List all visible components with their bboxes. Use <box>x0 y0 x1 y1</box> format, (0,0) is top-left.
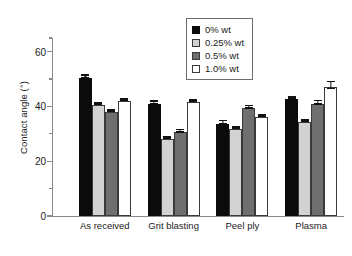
bar <box>148 104 161 216</box>
y-axis-line <box>52 38 53 216</box>
y-minor-tick-50 <box>49 78 53 79</box>
error-bar-cap-bottom <box>314 103 322 104</box>
bar <box>229 129 242 216</box>
error-bar-cap-bottom <box>163 138 171 139</box>
x-axis-label-plasma: Plasma <box>295 220 327 231</box>
error-bar-cap-bottom <box>245 107 253 108</box>
error-bar-cap-top <box>314 100 322 101</box>
bar-group <box>285 38 337 216</box>
error-bar-cap-bottom <box>288 97 296 98</box>
legend: 0% wt0.25% wt0.5% wt1.0% wt <box>186 18 253 80</box>
legend-swatch-icon <box>192 26 200 34</box>
y-axis-title: Contact angle (°) <box>18 43 29 193</box>
bar <box>216 124 229 216</box>
y-tick-label-20: 20 <box>6 156 46 167</box>
bar <box>79 78 92 216</box>
bar <box>174 132 187 216</box>
error-bar-cap-bottom <box>150 103 158 104</box>
x-axis-line <box>52 216 344 217</box>
error-bar-cap-top <box>219 120 227 121</box>
y-tick-label-60: 60 <box>6 46 46 57</box>
bar <box>311 104 324 216</box>
y-tick-label-40: 40 <box>6 101 46 112</box>
error-bar-cap-top <box>327 81 335 82</box>
y-minor-tick-65 <box>49 37 53 38</box>
x-axis-label-as-received: As received <box>80 220 130 231</box>
bar <box>187 102 200 216</box>
bar <box>324 87 337 216</box>
x-axis-label-grit-blasting: Grit blasting <box>148 220 199 231</box>
y-minor-tick-10 <box>49 188 53 189</box>
error-bar-cap-top <box>176 129 184 130</box>
legend-item[interactable]: 0.25% wt <box>192 36 244 49</box>
error-bar-cap-top <box>150 100 158 101</box>
y-tick-label-0: 0 <box>6 211 46 222</box>
error-bar-cap-bottom <box>258 115 266 116</box>
legend-item[interactable]: 1.0% wt <box>192 62 244 75</box>
y-tick-60 <box>47 51 52 52</box>
bar <box>161 139 174 216</box>
legend-label: 1.0% wt <box>205 63 239 74</box>
contact-angle-bar-chart: Contact angle (°) 0204060 As receivedGri… <box>0 0 352 256</box>
bar <box>242 108 255 216</box>
error-bar-cap-top <box>245 105 253 106</box>
error-bar-cap-bottom <box>94 104 102 105</box>
bar <box>298 122 311 216</box>
bar <box>92 105 105 216</box>
legend-label: 0.5% wt <box>205 50 239 61</box>
error-bar-cap-bottom <box>327 88 335 89</box>
legend-label: 0% wt <box>205 24 231 35</box>
bar <box>255 117 268 216</box>
y-tick-40 <box>47 106 52 107</box>
bar-group <box>79 38 131 216</box>
error-bar-cap-bottom <box>107 110 115 111</box>
legend-label: 0.25% wt <box>205 37 244 48</box>
y-minor-tick-30 <box>49 133 53 134</box>
error-bar-cap-bottom <box>301 120 309 121</box>
error-bar-cap-bottom <box>176 131 184 132</box>
y-tick-0 <box>47 215 52 216</box>
legend-swatch-icon <box>192 52 200 60</box>
y-tick-20 <box>47 161 52 162</box>
legend-swatch-icon <box>192 65 200 73</box>
legend-item[interactable]: 0% wt <box>192 23 244 36</box>
error-bar-cap-bottom <box>120 99 128 100</box>
error-bar-cap-bottom <box>219 123 227 124</box>
error-bar-cap-top <box>81 74 89 75</box>
legend-item[interactable]: 0.5% wt <box>192 49 244 62</box>
bar <box>105 112 118 216</box>
x-axis-label-peel-ply: Peel ply <box>225 220 259 231</box>
error-bar-cap-bottom <box>232 127 240 128</box>
legend-swatch-icon <box>192 39 200 47</box>
error-bar-cap-bottom <box>189 100 197 101</box>
bar <box>285 99 298 216</box>
error-bar-cap-bottom <box>81 77 89 78</box>
bar <box>118 101 131 216</box>
